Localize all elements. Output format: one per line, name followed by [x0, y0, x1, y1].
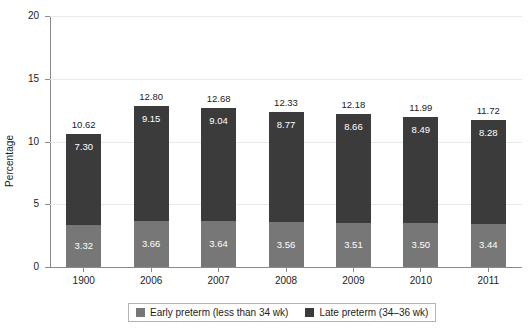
y-tick-mark: [45, 16, 50, 17]
bar-group[interactable]: 3.649.0412.682007: [201, 16, 236, 267]
stacked-bar-chart: Percentage 05101520 3.327.3010.6219003.6…: [0, 0, 530, 332]
bar-group[interactable]: 3.568.7712.332008: [269, 16, 304, 267]
bar-group[interactable]: 3.518.6612.182009: [336, 16, 371, 267]
legend-label: Early preterm (less than 34 wk): [150, 307, 288, 318]
bar-total-label: 11.72: [464, 106, 513, 116]
bar-total-label: 12.80: [127, 92, 176, 102]
bar-group[interactable]: 3.669.1512.802006: [134, 16, 169, 267]
bar-group[interactable]: 3.508.4911.992010: [403, 16, 438, 267]
bar-total-label: 11.99: [396, 103, 445, 113]
y-tick-label: 0: [13, 262, 39, 272]
chart-legend: Early preterm (less than 34 wk)Late pret…: [128, 303, 436, 322]
bar-total-label: 12.33: [262, 98, 311, 108]
y-tick-mark: [45, 267, 50, 268]
legend-label: Late preterm (34–36 wk): [319, 307, 428, 318]
x-tick-mark: [420, 267, 421, 272]
bar-value-label-early: 3.56: [269, 240, 304, 250]
x-tick-label: 2009: [327, 275, 380, 286]
bar-value-label-early: 3.50: [403, 240, 438, 250]
x-tick-mark: [151, 267, 152, 272]
x-tick-label: 2008: [260, 275, 313, 286]
bar-value-label-early: 3.51: [336, 240, 371, 250]
bar-total-label: 12.68: [194, 94, 243, 104]
y-tick-mark: [45, 204, 50, 205]
bar-total-label: 12.18: [329, 100, 378, 110]
bar-value-label-early: 3.64: [201, 239, 236, 249]
y-tick-mark: [45, 79, 50, 80]
bar-value-label-early: 3.32: [66, 241, 101, 251]
legend-swatch-icon: [305, 308, 314, 317]
bar-value-label-late: 8.28: [471, 128, 506, 138]
y-tick-label: 20: [13, 11, 39, 21]
bar-value-label-late: 7.30: [66, 142, 101, 152]
bar-value-label-late: 8.49: [403, 125, 438, 135]
x-tick-mark: [286, 267, 287, 272]
bar-group[interactable]: 3.327.3010.621900: [66, 16, 101, 267]
x-tick-label: 2007: [192, 275, 245, 286]
x-tick-mark: [488, 267, 489, 272]
y-axis-title-container: Percentage: [0, 0, 30, 332]
bar-value-label-early: 3.44: [471, 240, 506, 250]
x-tick-mark: [83, 267, 84, 272]
x-tick-label: 2010: [394, 275, 447, 286]
y-tick-label: 10: [13, 137, 39, 147]
bar-value-label-late: 8.77: [269, 120, 304, 130]
plot-area: 05101520 3.327.3010.6219003.669.1512.802…: [50, 16, 522, 267]
x-tick-label: 2011: [462, 275, 515, 286]
y-tick-mark: [45, 142, 50, 143]
bar-value-label-late: 8.66: [336, 122, 371, 132]
bar-value-label-late: 9.04: [201, 116, 236, 126]
y-tick-label: 15: [13, 74, 39, 84]
x-tick-mark: [218, 267, 219, 272]
x-tick-label: 1900: [57, 275, 110, 286]
x-tick-label: 2006: [125, 275, 178, 286]
bar-group[interactable]: 3.448.2811.722011: [471, 16, 506, 267]
bar-value-label-late: 9.15: [134, 114, 169, 124]
bar-total-label: 10.62: [59, 120, 108, 130]
legend-item[interactable]: Early preterm (less than 34 wk): [136, 307, 288, 318]
legend-item[interactable]: Late preterm (34–36 wk): [305, 307, 428, 318]
bar-value-label-early: 3.66: [134, 239, 169, 249]
x-tick-mark: [353, 267, 354, 272]
y-tick-label: 5: [13, 199, 39, 209]
legend-swatch-icon: [136, 308, 145, 317]
